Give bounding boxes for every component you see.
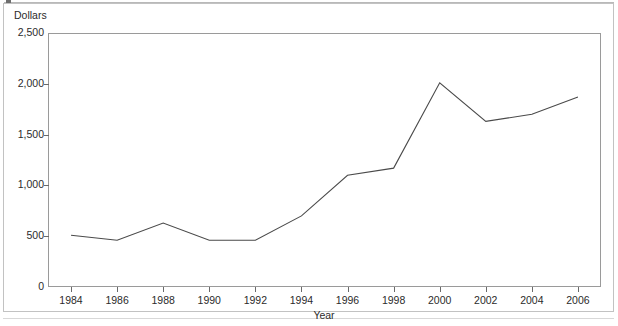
x-axis-tick-label: 1996 <box>336 294 359 306</box>
x-axis-tick-mark <box>486 287 487 292</box>
x-axis-tick-label: 1984 <box>59 294 82 306</box>
x-axis-tick-label: 1992 <box>244 294 267 306</box>
x-axis-tick-mark <box>71 287 72 292</box>
y-axis-tick-label: 0 <box>38 281 44 292</box>
x-axis-tick-mark <box>301 287 302 292</box>
y-axis-tick-label: 2,500 <box>18 27 44 38</box>
x-axis-title: Year <box>313 309 334 321</box>
y-axis-tick-label: 1,000 <box>18 179 44 190</box>
x-axis-tick-label: 1990 <box>198 294 221 306</box>
x-axis-tick-mark <box>440 287 441 292</box>
x-axis-tick-label: 2006 <box>566 294 589 306</box>
x-axis-tick-label: 2004 <box>520 294 543 306</box>
y-axis-tick-labels: 05001,0001,5002,0002,500 <box>0 0 44 326</box>
x-axis-tick-mark <box>348 287 349 292</box>
x-axis-tick-label: 2000 <box>428 294 451 306</box>
plot-area-frame <box>48 33 601 287</box>
x-axis-tick-mark <box>394 287 395 292</box>
line-chart: Dollars 05001,0001,5002,0002,500 1984198… <box>0 0 618 326</box>
x-axis-tick-mark <box>532 287 533 292</box>
y-axis-tick-mark <box>44 135 49 136</box>
x-axis-tick-mark <box>578 287 579 292</box>
y-axis-tick-mark <box>44 236 49 237</box>
x-axis-tick-mark <box>117 287 118 292</box>
x-axis-tick-label: 1998 <box>382 294 405 306</box>
x-axis-tick-label: 1986 <box>105 294 128 306</box>
y-axis-tick-label: 2,000 <box>18 78 44 89</box>
x-axis-tick-mark <box>209 287 210 292</box>
y-axis-tick-mark <box>44 185 49 186</box>
y-axis-tick-mark <box>44 84 49 85</box>
x-axis-tick-label: 1988 <box>152 294 175 306</box>
x-axis-tick-mark <box>163 287 164 292</box>
x-axis-tick-mark <box>255 287 256 292</box>
y-axis-tick-label: 1,500 <box>18 129 44 140</box>
y-axis-tick-label: 500 <box>26 230 44 241</box>
x-axis-tick-label: 1994 <box>290 294 313 306</box>
x-axis-tick-label: 2002 <box>474 294 497 306</box>
